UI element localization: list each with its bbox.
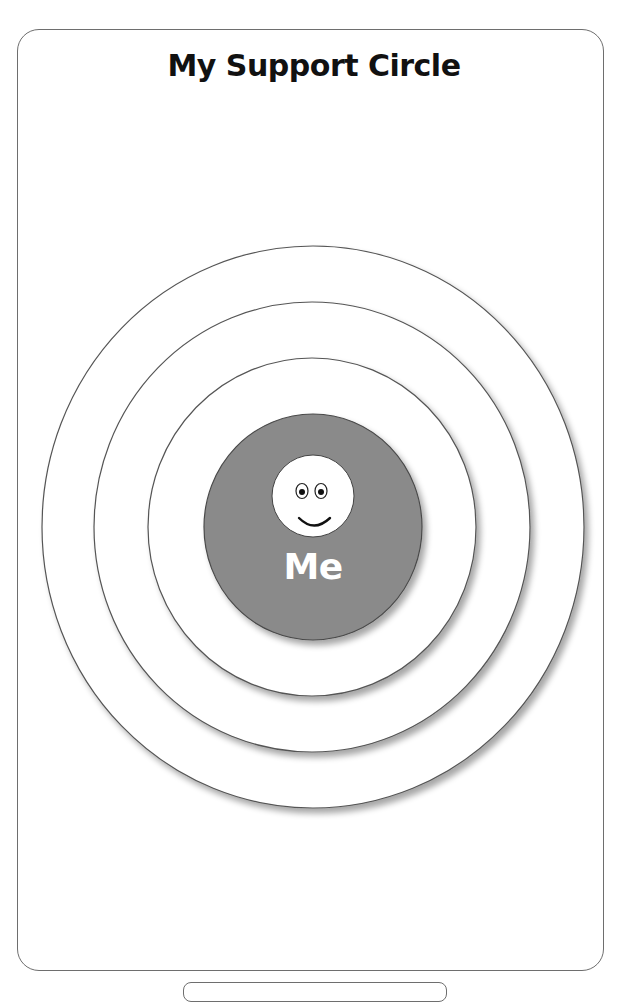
- center-label: Me: [213, 546, 413, 587]
- next-page-card-edge: [183, 982, 447, 1002]
- smiley-face-icon: [272, 455, 354, 537]
